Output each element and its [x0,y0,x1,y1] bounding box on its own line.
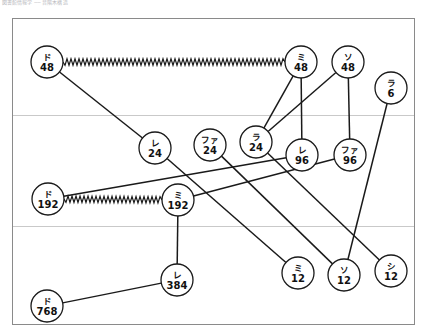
node-label-top: ミ [297,52,306,62]
node-label-bottom: 96 [295,155,309,166]
node-label-bottom: 24 [203,145,217,156]
node-label-top: シ [387,261,396,271]
node-label-top: ソ [344,52,353,62]
node-label-bottom: 192 [38,199,59,210]
node-label-top: ファ [341,145,359,155]
graph-node[interactable]: ファ96 [334,139,366,171]
graph-node[interactable]: ド192 [32,183,64,215]
node-label-top: ミ [294,263,303,273]
graph-edge [301,78,302,139]
graph-node[interactable]: ラ24 [240,126,272,158]
node-label-bottom: 24 [148,148,162,159]
node-label-top: ド [43,296,52,306]
node-label-bottom: 768 [37,306,58,317]
node-label-bottom: 384 [167,280,188,291]
node-label-top: レ [173,270,182,280]
node-label-top: レ [151,138,160,148]
node-label-top: ソ [340,265,349,275]
node-label-bottom: 6 [388,88,395,99]
graph-node[interactable]: シ12 [375,255,407,287]
graph-node[interactable]: ミ192 [162,184,194,216]
node-label-bottom: 12 [337,275,351,286]
node-label-top: ド [44,189,53,199]
graph-node[interactable]: ソ48 [332,46,364,78]
graph-node[interactable]: レ96 [286,139,318,171]
node-label-bottom: 48 [341,62,355,73]
node-label-bottom: 96 [343,155,357,166]
graph-node[interactable]: ソ12 [328,259,360,291]
graph-node[interactable]: ド768 [31,290,63,322]
node-label-top: ラ [387,78,396,88]
graph-node[interactable]: レ384 [161,264,193,296]
node-label-bottom: 24 [249,142,263,153]
graph-node[interactable]: レ24 [139,132,171,164]
node-label-top: ド [43,52,52,62]
graph-node[interactable]: ミ48 [285,46,317,78]
diagram-page: 図書館情報学 ── 音階木構造 ド48ミ48ソ48ラ6レ24ファ24ラ24レ96… [0,0,425,335]
node-label-top: ミ [174,190,183,200]
node-label-top: ファ [201,135,219,145]
graph-node[interactable]: ミ12 [282,257,314,289]
graph-canvas: ド48ミ48ソ48ラ6レ24ファ24ラ24レ96ファ96ド192ミ192レ384… [0,0,425,335]
graph-node[interactable]: ファ24 [194,129,226,161]
node-label-bottom: 12 [291,273,305,284]
node-label-top: レ [298,145,307,155]
node-label-bottom: 12 [384,271,398,282]
node-label-bottom: 48 [294,62,308,73]
node-label-bottom: 48 [40,62,54,73]
graph-edge [177,216,178,264]
node-label-bottom: 192 [168,200,189,211]
node-label-top: ラ [252,132,261,142]
graph-node[interactable]: ド48 [31,46,63,78]
graph-node[interactable]: ラ6 [375,72,407,104]
